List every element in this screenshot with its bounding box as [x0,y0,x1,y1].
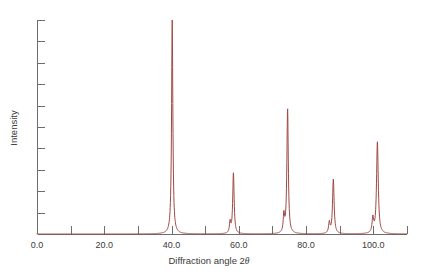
x-axis-tick-label: 80.0 [297,240,315,250]
x-axis-tick-label: 60.0 [230,240,248,250]
x-axis-tick-label: 100.0 [362,240,385,250]
x-axis-title-text: Diffraction angle 2 [168,255,244,266]
x-axis-tick-label: 0.0 [31,240,44,250]
x-axis-tick-label: 40.0 [163,240,181,250]
y-axis-ticks [38,21,45,235]
x-axis-group: 0.020.040.060.080.0100.0 Diffraction ang… [31,226,408,266]
x-axis-tick-labels: 0.020.040.060.080.0100.0 [31,240,385,250]
y-axis-group: Intensity [8,20,45,235]
peak-traces [37,20,407,234]
x-axis-ticks [38,226,408,234]
diffraction-trace [37,20,407,234]
y-axis-title: Intensity [8,110,19,146]
theta-symbol: θ [245,256,250,266]
x-axis-title: Diffraction angle 2θ [168,255,249,266]
xrd-chart-figure: Intensity 0.020.040.060.080.0100.0 Diffr… [0,0,435,279]
x-axis-tick-label: 20.0 [96,240,114,250]
diffraction-plot: Intensity 0.020.040.060.080.0100.0 Diffr… [0,0,435,279]
